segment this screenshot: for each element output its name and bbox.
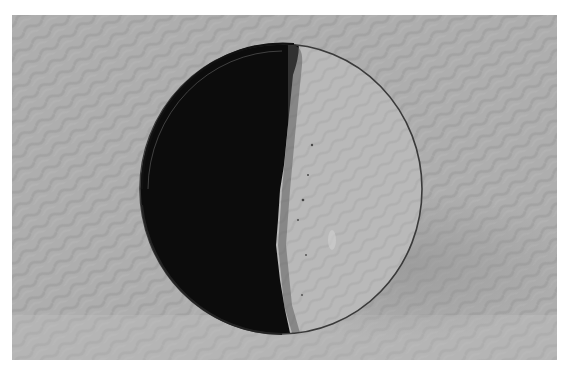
photo-canvas [12, 15, 557, 360]
dish-photograph [12, 15, 557, 360]
